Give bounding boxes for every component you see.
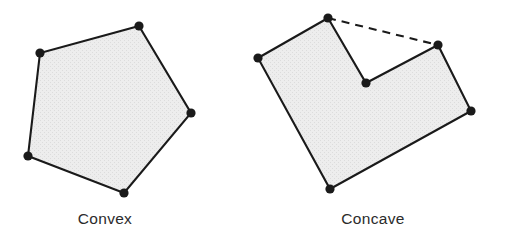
- concave-vertex-left: [253, 53, 262, 62]
- concave-vertex-reflex-notch: [361, 78, 370, 87]
- concave-vertex-top: [323, 13, 332, 22]
- concave-vertex-upper-right: [433, 40, 442, 49]
- polygon-diagram-svg: Convex Concave: [0, 0, 506, 240]
- convex-vertex-bottom-left: [23, 151, 32, 160]
- convex-caption: Convex: [78, 210, 132, 227]
- concave-caption: Concave: [341, 210, 404, 227]
- concave-vertex-right: [466, 106, 475, 115]
- figure-container: Convex Concave: [0, 0, 506, 240]
- convex-polygon: [28, 26, 191, 193]
- concave-vertex-bottom: [325, 184, 334, 193]
- concave-panel: Concave: [253, 13, 475, 227]
- convex-vertex-top: [134, 21, 143, 30]
- convex-vertex-bottom: [119, 188, 128, 197]
- convex-panel: Convex: [23, 21, 195, 227]
- convex-hull-dashed-edge: [328, 18, 438, 45]
- convex-vertex-left-top: [35, 48, 44, 57]
- convex-vertex-right: [186, 108, 195, 117]
